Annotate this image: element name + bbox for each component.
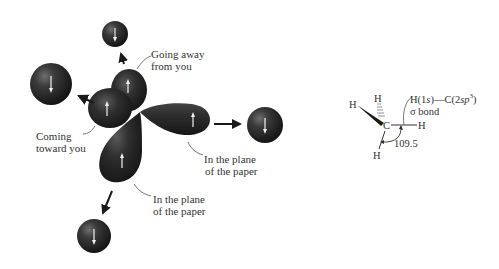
hydrogen-sphere-right xyxy=(247,107,283,143)
lobe-right xyxy=(140,103,210,135)
label-line: In the plane xyxy=(204,153,258,165)
formula-part: ) xyxy=(473,94,477,105)
atom-h-right: H xyxy=(418,120,426,131)
bond-orbital-formula: H(1s)—C(2sp3) xyxy=(410,91,477,105)
formula-part: sp xyxy=(460,94,469,105)
label-line: of the paper xyxy=(204,165,258,177)
lobe-front xyxy=(88,88,132,128)
leader-going-away xyxy=(137,56,151,69)
label-line: of the paper xyxy=(153,205,206,217)
formula-part: )—C(2 xyxy=(430,94,460,105)
label-line: from you xyxy=(151,60,204,72)
sigma-bond-text: σ bond xyxy=(410,106,477,117)
label-plane-bottom: In the plane of the paper xyxy=(153,193,206,217)
leader-plane-bottom xyxy=(134,184,151,196)
bond-bottom xyxy=(379,131,385,149)
hydrogen-sphere-left xyxy=(30,63,72,105)
atom-h-top: H xyxy=(374,93,382,104)
label-plane-right: In the plane of the paper xyxy=(204,153,258,177)
bond-angle-label: 109.5 xyxy=(394,138,418,149)
diagram-canvas: Going away from you Coming toward you In… xyxy=(0,0,499,269)
wedge-bond xyxy=(357,105,384,126)
atom-h-upper-left: H xyxy=(349,99,357,110)
hydrogen-sphere-top xyxy=(102,21,128,47)
label-going-away: Going away from you xyxy=(151,48,204,72)
hydrogen-sphere-bottom xyxy=(77,219,111,253)
sp3-orbital-group xyxy=(88,69,210,182)
atom-h-bottom: H xyxy=(373,150,381,161)
arrow-bottom-icon xyxy=(103,191,112,213)
atom-c: C xyxy=(383,120,390,131)
label-line: toward you xyxy=(36,142,86,154)
sigma-bond-label: H(1s)—C(2sp3) σ bond xyxy=(410,91,477,117)
label-line: Coming xyxy=(36,130,86,142)
label-line: Going away xyxy=(151,48,204,60)
arrow-top-icon xyxy=(121,54,124,64)
label-coming-toward: Coming toward you xyxy=(36,130,86,154)
hashed-bond xyxy=(377,104,385,116)
formula-part: H(1 xyxy=(410,94,426,105)
leader-plane-right xyxy=(188,142,203,155)
label-line: In the plane xyxy=(153,193,206,205)
